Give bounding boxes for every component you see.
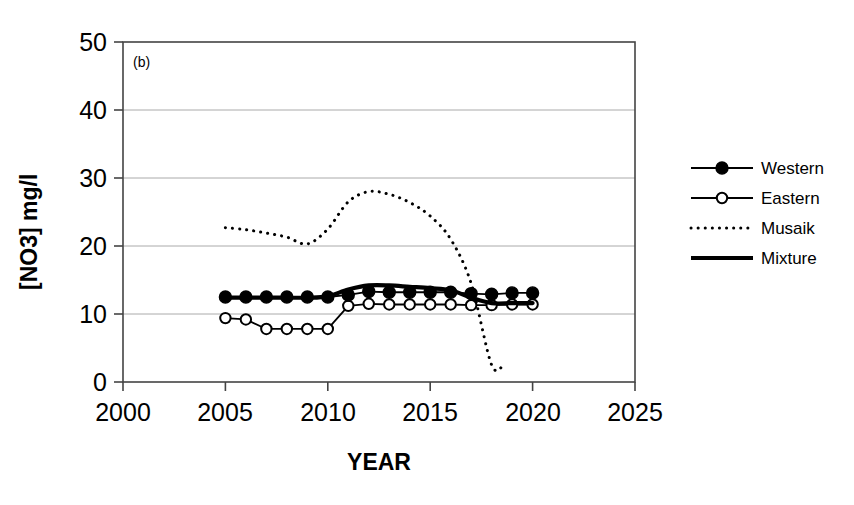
data-point-western xyxy=(506,287,518,299)
x-tick-label: 2000 xyxy=(95,398,151,426)
y-tick-label: 10 xyxy=(79,300,107,328)
legend-label: Musaik xyxy=(761,219,815,238)
y-tick-label: 30 xyxy=(79,164,107,192)
legend-item-mixture: Mixture xyxy=(691,249,817,268)
x-tick-label: 2010 xyxy=(300,398,356,426)
data-point-western xyxy=(486,288,498,300)
y-tick-label: 0 xyxy=(93,368,107,396)
data-point-eastern xyxy=(364,299,374,309)
data-point-eastern xyxy=(323,324,333,334)
x-tick-label: 2025 xyxy=(607,398,663,426)
legend-label: Western xyxy=(761,159,824,178)
chart-figure: 50 40 30 20 10 0 [NO3] mg/l 2000 2005 20… xyxy=(0,0,854,505)
legend-item-musaik: Musaik xyxy=(691,219,815,238)
legend-item-western: Western xyxy=(691,159,824,178)
series-musaik xyxy=(225,191,504,371)
x-tick-label: 2015 xyxy=(402,398,458,426)
data-point-eastern xyxy=(343,301,353,311)
data-point-eastern xyxy=(261,324,271,334)
data-point-eastern xyxy=(220,313,230,323)
legend-open-circle-icon xyxy=(717,193,727,203)
chart-svg: 50 40 30 20 10 0 [NO3] mg/l 2000 2005 20… xyxy=(0,0,854,505)
data-point-eastern xyxy=(405,299,415,309)
y-axis-tick-labels: 50 40 30 20 10 0 xyxy=(79,28,107,396)
data-point-western xyxy=(527,287,539,299)
data-point-eastern xyxy=(241,314,251,324)
x-axis-title: YEAR xyxy=(347,449,411,475)
data-point-eastern xyxy=(445,299,455,309)
plot-frame xyxy=(123,42,635,382)
x-tick-label: 2020 xyxy=(505,398,561,426)
legend-label: Mixture xyxy=(761,249,817,268)
series-line-musaik xyxy=(225,191,504,371)
data-point-eastern xyxy=(282,324,292,334)
y-tick-label: 40 xyxy=(79,96,107,124)
chart-legend: WesternEasternMusaikMixture xyxy=(691,159,824,268)
data-point-western xyxy=(383,286,395,298)
plot-area xyxy=(114,42,635,391)
series-western xyxy=(219,286,538,303)
y-axis-title: [NO3] mg/l xyxy=(16,174,42,290)
y-tick-label: 20 xyxy=(79,232,107,260)
y-tick-label: 50 xyxy=(79,28,107,56)
legend-label: Eastern xyxy=(761,189,820,208)
data-point-eastern xyxy=(302,324,312,334)
x-tick-label: 2005 xyxy=(197,398,253,426)
data-point-eastern xyxy=(384,299,394,309)
x-axis-tick-labels: 2000 2005 2010 2015 2020 2025 xyxy=(95,398,663,426)
legend-filled-circle-icon xyxy=(716,162,728,174)
legend-item-eastern: Eastern xyxy=(691,189,820,208)
data-point-eastern xyxy=(425,299,435,309)
data-point-eastern xyxy=(466,300,476,310)
panel-label: (b) xyxy=(133,54,150,70)
series-group xyxy=(219,191,538,371)
